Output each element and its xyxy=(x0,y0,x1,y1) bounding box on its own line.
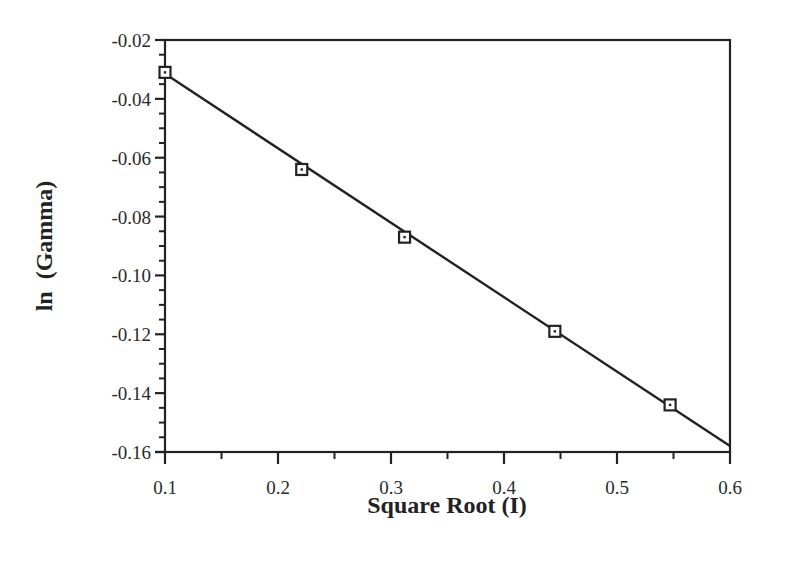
x-tick-label: 0.5 xyxy=(605,477,629,498)
data-point-center-dot xyxy=(554,330,556,332)
data-point-center-dot xyxy=(403,236,405,238)
y-tick-label: -0.16 xyxy=(111,442,151,463)
x-tick-label: 0.2 xyxy=(266,477,290,498)
y-tick-label: -0.12 xyxy=(111,324,151,345)
regression-line xyxy=(165,74,730,446)
data-point-center-dot xyxy=(301,168,303,170)
y-tick-label: -0.06 xyxy=(111,148,151,169)
data-point-center-dot xyxy=(669,404,671,406)
y-tick-label: -0.08 xyxy=(111,207,151,228)
y-axis-ticks: -0.02-0.04-0.06-0.08-0.10-0.12-0.14-0.16 xyxy=(111,30,165,463)
y-tick-label: -0.02 xyxy=(111,30,151,51)
y-axis-title: ln (Gamma) xyxy=(31,181,57,312)
x-axis-title: Square Root (I) xyxy=(367,492,527,518)
x-tick-label: 0.6 xyxy=(718,477,742,498)
chart: -0.02-0.04-0.06-0.08-0.10-0.12-0.14-0.16… xyxy=(0,0,785,561)
y-tick-label: -0.04 xyxy=(111,89,151,110)
fit-line xyxy=(165,74,730,446)
data-point-center-dot xyxy=(164,71,166,73)
y-tick-label: -0.14 xyxy=(111,383,151,404)
x-tick-label: 0.1 xyxy=(153,477,177,498)
y-tick-label: -0.10 xyxy=(111,265,151,286)
